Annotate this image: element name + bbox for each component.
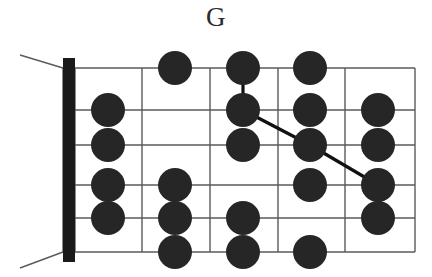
note-dot-f5-s3 [361, 128, 395, 162]
note-dot-f4-s1 [293, 51, 327, 85]
note-dot-f3-s5 [226, 201, 260, 235]
chord-diagram-page: G [0, 0, 432, 277]
headstock-edge [20, 55, 63, 68]
fretboard-diagram [0, 0, 432, 277]
note-dot-f3-s2 [226, 93, 260, 127]
note-dot-f1-s2 [91, 93, 125, 127]
note-dot-f4-s4 [293, 168, 327, 202]
headstock-edge [20, 252, 63, 268]
note-dot-f3-s1 [226, 51, 260, 85]
note-dot-f4-s6 [293, 235, 327, 269]
note-dot-f4-s3 [293, 128, 327, 162]
headstock-edges [20, 55, 63, 268]
note-dot-f5-s4 [361, 168, 395, 202]
nut-bar [63, 58, 75, 262]
note-dot-f3-s3 [226, 128, 260, 162]
note-dot-f1-s3 [91, 128, 125, 162]
note-dot-f5-s5 [361, 201, 395, 235]
note-dot-f4-s2 [293, 93, 327, 127]
note-dot-f1-s4 [91, 168, 125, 202]
note-dots [91, 51, 395, 269]
note-dot-f2-s4 [158, 168, 192, 202]
note-dot-f3-s6 [226, 235, 260, 269]
nut [63, 58, 75, 262]
note-dot-f2-s5 [158, 201, 192, 235]
note-dot-f5-s2 [361, 93, 395, 127]
note-dot-f2-s1 [158, 51, 192, 85]
note-dot-f2-s6 [158, 235, 192, 269]
note-dot-f1-s5 [91, 201, 125, 235]
